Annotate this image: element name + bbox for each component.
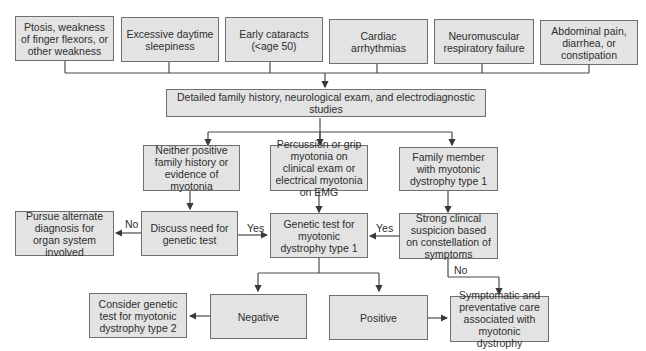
yes-label-discuss: Yes (247, 222, 264, 234)
positive-box: Positive (329, 295, 428, 340)
family-member-box: Family member with myotonic dystrophy ty… (399, 147, 498, 191)
symptom-box-sleepiness: Excessive daytime sleepiness (121, 17, 219, 62)
consider-type2-box: Consider genetic test for myotonic dystr… (89, 293, 187, 338)
alternate-diagnosis-box: Pursue alternate diagnosis for organ sys… (15, 211, 114, 256)
yes-label-suspicion: Yes (376, 222, 393, 234)
symptom-box-gi: Abdominal pain, diarrhea, or constipatio… (540, 20, 638, 65)
suspicion-box: Strong clinical suspicion based on const… (399, 213, 498, 259)
neither-box: Neither positive family history or evide… (143, 145, 240, 191)
discuss-box: Discuss need for genetic test (141, 211, 238, 256)
symptom-box-cataracts: Early cataracts (<age 50) (225, 17, 323, 62)
myotonia-box: Percussion or grip myotonia on clinical … (270, 145, 368, 191)
symptom-box-weakness: Ptosis, weakness of finger flexors, or o… (15, 16, 114, 61)
no-label-discuss: No (125, 218, 138, 230)
care-box: Symptomatic and preventative care associ… (450, 296, 549, 342)
symptom-box-respiratory: Neuromuscular respiratory failure (434, 19, 534, 64)
evaluation-box: Detailed family history, neurological ex… (166, 89, 486, 117)
symptom-box-arrhythmias: Cardiac arrhythmias (329, 19, 428, 64)
negative-box: Negative (210, 294, 307, 339)
no-label-suspicion: No (454, 264, 467, 276)
genetic-test-box: Genetic test for myotonic dystrophy type… (270, 213, 368, 258)
